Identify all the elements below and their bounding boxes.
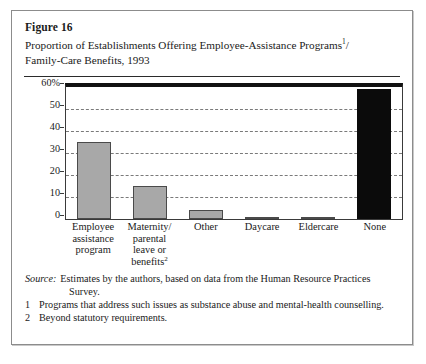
bar-slot	[122, 87, 178, 219]
bar	[77, 142, 111, 219]
bar-slot	[346, 87, 402, 219]
bar-slot	[178, 87, 234, 219]
footnote-item: 2Beyond statutory requirements.	[25, 312, 400, 325]
footnote-item: 1Programs that address such issues as su…	[25, 299, 400, 312]
y-tick-mark-20	[60, 171, 64, 172]
source-text: Estimates by the authors, based on data …	[60, 273, 370, 297]
x-axis-label: Daycare	[234, 219, 290, 267]
x-axis-label: Eldercare	[290, 219, 346, 267]
figure-number: Figure 16	[25, 20, 399, 35]
y-tick-label-40: 40	[16, 122, 60, 132]
bar-slot	[66, 87, 122, 219]
figure-notes: Source:Estimates by the authors, based o…	[25, 273, 400, 324]
figure-title-block: Figure 16 Proportion of Establishments O…	[12, 11, 412, 71]
bar-slot	[234, 87, 290, 219]
y-tick-mark-40	[60, 127, 64, 128]
figure-card: Figure 16 Proportion of Establishments O…	[11, 10, 413, 345]
figure-caption-slash: /	[346, 39, 349, 51]
source-label: Source:	[25, 273, 60, 284]
bar-series	[66, 87, 402, 219]
plot-frame	[65, 83, 403, 220]
y-tick-label-0: 0	[16, 210, 60, 220]
bar	[189, 210, 223, 219]
x-axis-labels: EmployeeassistanceprogramMaternity/paren…	[65, 219, 403, 267]
x-axis-label: None	[347, 219, 403, 267]
footnote-list: 1Programs that address such issues as su…	[25, 299, 400, 324]
figure-caption-line1: Proportion of Establishments Offering Em…	[25, 39, 342, 51]
y-tick-mark-60	[60, 83, 64, 84]
source-note: Source:Estimates by the authors, based o…	[25, 273, 400, 298]
y-axis: 60%50403020100	[12, 83, 60, 215]
title-divider	[24, 76, 400, 77]
footnote-number: 2	[25, 312, 39, 325]
figure-caption: Proportion of Establishments Offering Em…	[25, 38, 399, 67]
y-tick-mark-30	[60, 149, 64, 150]
y-tick-label-10: 10	[16, 188, 60, 198]
bar-slot	[290, 87, 346, 219]
footnote-number: 1	[25, 299, 39, 312]
footnote-text: Programs that address such issues as sub…	[39, 299, 400, 312]
y-tick-mark-10	[60, 193, 64, 194]
y-tick-mark-50	[60, 105, 64, 106]
y-tick-label-30: 30	[16, 144, 60, 154]
chart-area: 60%50403020100 Employeeassistanceprogram…	[12, 79, 412, 279]
y-tick-label-60: 60%	[16, 78, 60, 88]
x-axis-label: Maternity/parentalleave orbenefits2	[121, 219, 177, 267]
y-tick-mark-0	[60, 215, 64, 216]
bar	[357, 89, 391, 219]
footnote-text: Beyond statutory requirements.	[39, 312, 400, 325]
x-axis-label: Other	[178, 219, 234, 267]
y-tick-label-50: 50	[16, 100, 60, 110]
bar	[133, 186, 167, 219]
x-axis-label: Employeeassistanceprogram	[65, 219, 121, 267]
y-tick-label-20: 20	[16, 166, 60, 176]
figure-caption-line2: Family-Care Benefits, 1993	[25, 54, 150, 66]
